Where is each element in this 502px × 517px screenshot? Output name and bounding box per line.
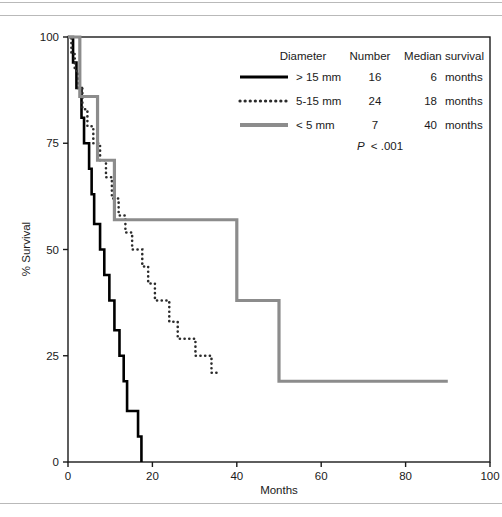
survival-chart-svg: 0255075100 020406080100 % Survival Month… xyxy=(0,18,502,500)
y-tick-label: 25 xyxy=(46,350,59,362)
series-layer xyxy=(68,37,448,462)
x-tick-label: 0 xyxy=(65,470,71,482)
legend-number-2: 7 xyxy=(372,119,378,131)
y-axis-title: % Survival xyxy=(20,222,32,276)
x-tick-label: 40 xyxy=(230,470,243,482)
pvalue-text: < .001 xyxy=(368,140,404,152)
header-rule-second xyxy=(0,15,502,16)
legend-median-2: 40 xyxy=(424,119,437,131)
x-tick-label: 60 xyxy=(315,470,328,482)
chart-legend: Diameter Number Median survival > 15 mm1… xyxy=(240,50,484,152)
legend-diameter-1: 5-15 mm xyxy=(296,95,341,107)
footer-rule xyxy=(0,503,502,504)
y-axis-ticks: 0255075100 xyxy=(40,31,68,468)
survival-chart-figure: 0255075100 020406080100 % Survival Month… xyxy=(0,18,502,500)
header-rule-top xyxy=(0,2,502,3)
x-axis-title: Months xyxy=(260,484,298,496)
legend-median-1: 18 xyxy=(424,95,437,107)
y-tick-label: 75 xyxy=(46,137,59,149)
legend-unit-1: months xyxy=(445,95,483,107)
y-tick-label: 100 xyxy=(40,31,59,43)
y-tick-label: 0 xyxy=(53,456,59,468)
legend-header-number: Number xyxy=(350,50,391,62)
x-tick-label: 100 xyxy=(480,470,499,482)
legend-diameter-2: < 5 mm xyxy=(296,119,335,131)
series-line-5-15-mm xyxy=(68,37,220,373)
x-tick-label: 20 xyxy=(146,470,159,482)
legend-diameter-0: > 15 mm xyxy=(296,71,341,83)
pvalue-symbol: P xyxy=(357,140,365,152)
legend-number-0: 16 xyxy=(369,71,382,83)
y-tick-label: 50 xyxy=(46,244,59,256)
series-line--5-mm xyxy=(68,37,448,381)
legend-rows: > 15 mm166months5-15 mm2418months< 5 mm7… xyxy=(240,71,483,131)
x-axis-ticks: 020406080100 xyxy=(65,462,500,482)
legend-unit-2: months xyxy=(445,119,483,131)
legend-unit-0: months xyxy=(445,71,483,83)
x-tick-label: 80 xyxy=(399,470,412,482)
legend-number-1: 24 xyxy=(369,95,382,107)
legend-median-0: 6 xyxy=(431,71,437,83)
legend-header-diameter: Diameter xyxy=(280,50,327,62)
legend-pvalue: P < .001 xyxy=(357,140,403,152)
legend-header-median-survival: Median survival xyxy=(404,50,484,62)
series-line--15-mm xyxy=(68,37,141,462)
